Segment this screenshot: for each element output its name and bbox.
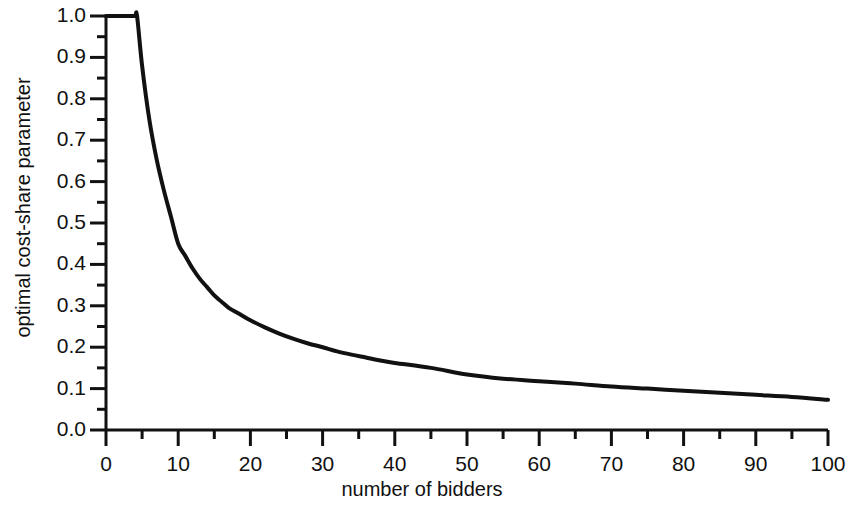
x-tick-label: 60 [499, 452, 579, 476]
x-tick-label: 70 [571, 452, 651, 476]
y-axis-ticks [90, 16, 106, 430]
x-tick-label: 10 [138, 452, 218, 476]
x-tick-label: 90 [716, 452, 796, 476]
x-tick-label: 40 [355, 452, 435, 476]
axis-lines [106, 16, 828, 430]
x-tick-label: 0 [66, 452, 146, 476]
x-tick-label: 80 [644, 452, 724, 476]
y-tick-label: 0.4 [18, 251, 86, 275]
y-tick-label: 0.0 [18, 417, 86, 441]
y-tick-label: 0.3 [18, 293, 86, 317]
x-tick-label: 100 [788, 452, 850, 476]
y-tick-label: 0.9 [18, 44, 86, 68]
x-tick-label: 20 [210, 452, 290, 476]
y-tick-label: 0.7 [18, 127, 86, 151]
y-tick-label: 0.2 [18, 334, 86, 358]
y-tick-label: 0.1 [18, 376, 86, 400]
x-tick-label: 30 [283, 452, 363, 476]
y-tick-label: 0.8 [18, 86, 86, 110]
data-line-series-0 [106, 12, 828, 399]
x-axis-label: number of bidders [0, 478, 844, 501]
x-axis-ticks [106, 430, 828, 446]
x-tick-label: 50 [427, 452, 507, 476]
y-tick-label: 0.5 [18, 210, 86, 234]
y-tick-label: 1.0 [18, 3, 86, 27]
y-tick-label: 0.6 [18, 169, 86, 193]
